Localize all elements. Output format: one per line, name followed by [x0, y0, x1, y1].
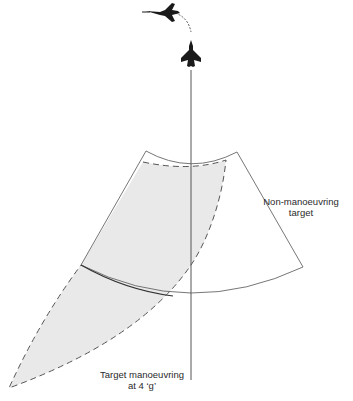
- target-turn-path: [172, 12, 191, 32]
- non-manoeuvring-label-line2: target: [256, 207, 346, 218]
- manoeuvring-envelope-region: [9, 160, 226, 388]
- manoeuvring-label-line1: Target manoeuvring: [92, 369, 192, 380]
- manoeuvring-label: Target manoeuvring at 4 ‘g’: [92, 369, 192, 391]
- non-manoeuvring-label-line1: Non-manoeuvring: [256, 196, 346, 207]
- manoeuvring-label-line2: at 4 ‘g’: [92, 380, 192, 391]
- non-manoeuvring-label: Non-manoeuvring target: [256, 196, 346, 218]
- target-aircraft-icon: [142, 3, 180, 22]
- attacker-aircraft-icon: [181, 40, 201, 67]
